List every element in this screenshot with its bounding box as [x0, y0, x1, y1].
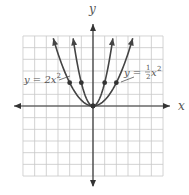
point-marker: [102, 80, 107, 85]
x-axis-left-arrow-icon: [14, 103, 21, 109]
equation-half-prefix: y =: [123, 67, 141, 78]
point-marker: [91, 104, 96, 109]
equation-half-exponent: 2: [157, 65, 161, 73]
y-axis-up-arrow-icon: [90, 24, 96, 31]
x-axis-right-arrow-icon: [163, 103, 170, 109]
svg-text:y = 2x2: y = 2x2: [23, 72, 61, 85]
equation-2x2-text: y = 2x: [23, 74, 57, 85]
curve-arrow-icon: [71, 38, 77, 45]
equation-half-denominator: 2: [146, 73, 150, 81]
x-axis-label: x: [178, 99, 185, 113]
point-marker: [67, 80, 72, 85]
point-marker: [79, 80, 84, 85]
label-y-equals-half-x-squared: y = 1 2 x 2: [121, 64, 161, 82]
y-axis-down-arrow-icon: [90, 180, 96, 187]
point-marker: [114, 80, 119, 85]
equation-2x2-exponent: 2: [56, 72, 60, 80]
curve-arrow-icon: [52, 38, 58, 46]
equation-half-numerator: 1: [146, 64, 150, 72]
parabola-graph: y x y = 2x2 y = 1 2 x 2: [0, 0, 189, 195]
y-axis-label: y: [88, 2, 96, 16]
curve-arrow-icon: [109, 38, 115, 45]
curve-arrow-icon: [128, 38, 134, 46]
